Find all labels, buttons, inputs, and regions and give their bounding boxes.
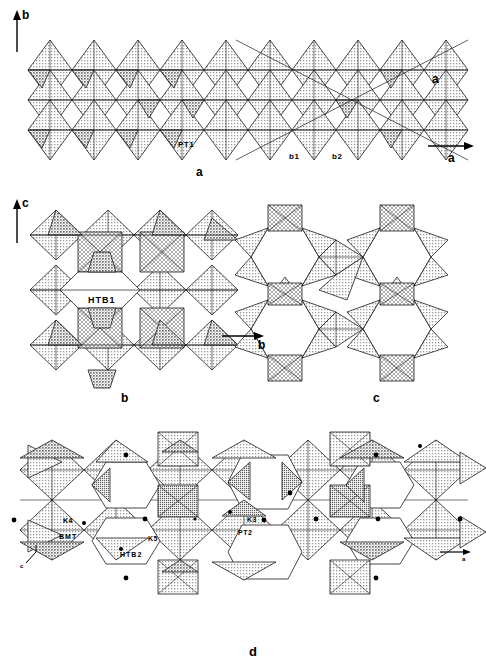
panel-a-structure [28, 40, 468, 160]
site-label-htb2: HTB2 [120, 551, 142, 558]
site-label-htb1: HTB1 [88, 296, 116, 305]
panel-label-d: d [249, 645, 257, 658]
site-label-k3: K3 [247, 516, 257, 523]
site-label-b2: b2 [332, 153, 342, 161]
panel-d-structure [12, 432, 486, 594]
figure-canvas: b a a PT1 b1 b2 a c b HTB1 b c K4 BMT K5… [0, 0, 486, 671]
structure-drawing [0, 0, 486, 671]
site-label-b1: b1 [289, 153, 299, 161]
panel-label-a: a [196, 166, 203, 178]
panel-c-structure [235, 205, 448, 381]
site-label-k5: K5 [148, 535, 158, 542]
panel-label-c: c [373, 392, 380, 404]
axis-label-a-float-panel-a: a [432, 73, 439, 85]
site-label-k4: K4 [63, 517, 73, 524]
axis-label-c-panel-b: c [22, 197, 29, 209]
site-label-bmt: BMT [59, 533, 77, 540]
panel-b-structure [30, 210, 238, 388]
site-label-pt1: PT1 [178, 141, 194, 149]
panel-label-b: b [121, 392, 129, 404]
axis-label-b-panel-a: b [22, 9, 30, 21]
axis-label-a-arrow-panel-a: a [448, 152, 455, 164]
axis-label-b-arrow-panel-b: b [258, 339, 266, 351]
site-label-pt2: PT2 [238, 529, 252, 536]
axis-label-a-panel-d: a [462, 556, 466, 562]
axis-label-c-panel-d: c [20, 563, 24, 569]
